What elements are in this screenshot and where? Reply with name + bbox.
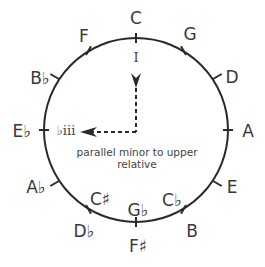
arrowhead-left-icon [80, 127, 97, 137]
note-a-flat: A♭ [26, 177, 46, 197]
note-e-flat: E♭ [13, 121, 32, 141]
arrowhead-down-icon [131, 73, 141, 88]
dashed-arrow [80, 73, 141, 137]
note-d: D [225, 67, 238, 87]
note-d-flat: D♭ [73, 221, 94, 241]
roman-numeral-flat-iii: ♭iii [57, 123, 76, 138]
note-f-sharp: F♯ [129, 236, 147, 256]
circle-of-fifths-diagram: C G D A E B C♭ G♭ F♯ C♯ D♭ A♭ E♭ B♭ F I … [0, 0, 265, 267]
note-a: A [242, 121, 254, 141]
note-c-flat: C♭ [162, 190, 182, 210]
note-c-sharp: C♯ [90, 189, 110, 209]
note-c: C [130, 8, 142, 28]
note-g: G [183, 24, 196, 44]
note-e: E [227, 177, 238, 197]
note-g-flat: G♭ [127, 200, 148, 220]
roman-numeral-i: I [133, 50, 138, 65]
note-b-flat: B♭ [30, 68, 50, 88]
caption-line-2: relative [117, 158, 157, 170]
caption-line-1: parallel minor to upper [77, 146, 199, 158]
note-b: B [186, 221, 198, 241]
note-f: F [79, 26, 89, 46]
